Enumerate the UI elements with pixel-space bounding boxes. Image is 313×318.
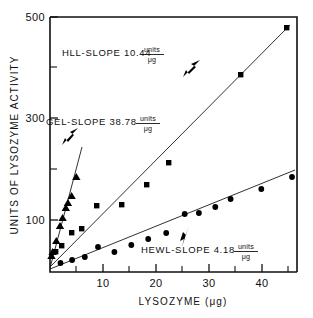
data-point-circle bbox=[69, 257, 75, 263]
fit-lines bbox=[50, 25, 295, 269]
hll-arrow-icon bbox=[183, 60, 200, 77]
hewl-units-denominator: μg bbox=[242, 252, 251, 261]
data-point-square bbox=[94, 203, 99, 208]
hewl-annotation-label: HEWL-SLOPE 4.18 bbox=[141, 244, 235, 255]
y-ticklabel-300: 300 bbox=[25, 112, 45, 124]
data-point-square bbox=[119, 202, 124, 207]
data-point-triangle bbox=[64, 199, 72, 206]
data-point-triangle bbox=[58, 214, 66, 221]
gel-arrow-icon bbox=[62, 128, 78, 145]
data-point-triangle bbox=[67, 192, 75, 199]
data-point-square bbox=[238, 72, 243, 77]
x-ticklabel-40: 40 bbox=[255, 277, 268, 289]
hewl-annotation: HEWL-SLOPE 4.18 units μg bbox=[141, 242, 258, 261]
data-point-circle bbox=[289, 174, 295, 180]
data-point-circle bbox=[163, 230, 169, 236]
data-point-square bbox=[166, 160, 171, 165]
x-ticklabel-20: 20 bbox=[149, 277, 162, 289]
data-point-circle bbox=[145, 236, 151, 242]
data-point-triangle bbox=[56, 222, 64, 229]
x-axis-tick-labels: 10 20 30 40 bbox=[96, 277, 268, 289]
y-ticklabel-100: 100 bbox=[25, 214, 45, 226]
data-point-circle bbox=[182, 211, 188, 217]
data-point-square bbox=[69, 230, 74, 235]
hll-annotation: HLL-SLOPE 10.44 units μg bbox=[62, 45, 164, 64]
pointer-arrows bbox=[62, 60, 200, 247]
data-point-circle bbox=[112, 249, 118, 255]
data-point-triangle bbox=[52, 237, 60, 244]
data-point-circle bbox=[258, 186, 264, 192]
data-point-circle bbox=[212, 204, 218, 210]
data-point-square bbox=[144, 182, 149, 187]
hll-annotation-label: HLL-SLOPE 10.44 bbox=[62, 47, 151, 58]
gel-units-denominator: μg bbox=[144, 124, 153, 133]
data-point-triangle bbox=[72, 173, 80, 180]
gel-annotation: GEL-SLOPE 38.78 units μg bbox=[46, 114, 160, 133]
lysozyme-activity-figure: 500 300 100 10 20 30 40 LYSOZYME (μg) UN… bbox=[0, 0, 313, 318]
data-point-circle bbox=[82, 254, 88, 260]
hll-units-numerator: units bbox=[144, 45, 160, 54]
x-axis-title: LYSOZYME (μg) bbox=[139, 296, 228, 307]
data-point-square bbox=[284, 25, 289, 30]
x-ticklabel-30: 30 bbox=[202, 277, 215, 289]
scatter-plot-canvas: 500 300 100 10 20 30 40 LYSOZYME (μg) UN… bbox=[0, 0, 313, 318]
data-point-circle bbox=[58, 260, 64, 266]
fit-line-hll bbox=[50, 25, 290, 267]
x-ticklabel-10: 10 bbox=[96, 277, 109, 289]
data-point-square bbox=[79, 226, 84, 231]
gel-annotation-label: GEL-SLOPE 38.78 bbox=[46, 116, 137, 127]
data-point-circle bbox=[128, 242, 134, 248]
x-axis-ticks bbox=[76, 264, 288, 272]
gel-units-numerator: units bbox=[140, 114, 156, 123]
data-point-circle bbox=[95, 244, 101, 250]
data-point-circle bbox=[228, 196, 234, 202]
y-axis-tick-labels: 500 300 100 bbox=[25, 11, 45, 226]
hewl-units-numerator: units bbox=[238, 242, 254, 251]
data-point-circle bbox=[196, 210, 202, 216]
y-ticklabel-500: 500 bbox=[25, 11, 45, 23]
hll-units-denominator: μg bbox=[148, 55, 157, 64]
y-axis-title: UNITS OF LYSOZYME ACTIVITY bbox=[9, 56, 20, 235]
